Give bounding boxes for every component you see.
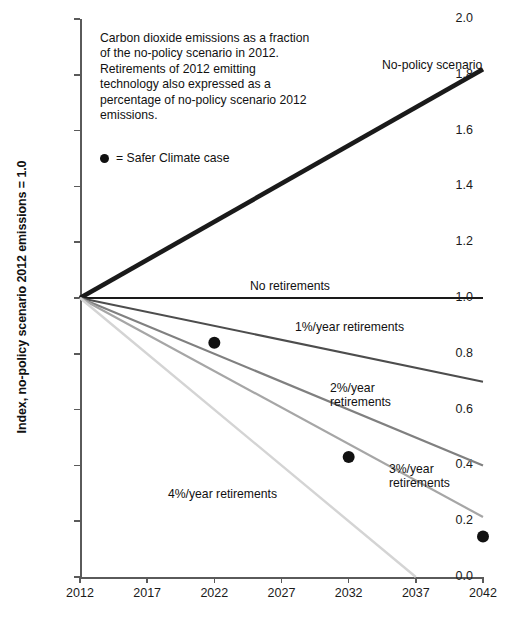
x-tick [79,577,81,583]
x-tick [348,577,350,583]
legend-label: = Safer Climate case [116,151,229,165]
series-label-2pct-line1: 2%/year [330,381,391,395]
series-label-3pct-line2: retirements [389,476,450,490]
series-label-4pct: 4%/year retirements [168,487,277,501]
x-tick-label: 2022 [184,586,244,600]
emissions-line-chart: Index, no-policy scenario 2012 emissions… [0,0,517,619]
legend-marker-icon [100,154,109,163]
x-tick [415,577,417,583]
x-tick [146,577,148,583]
x-tick-label: 2037 [386,586,446,600]
x-tick-label: 2017 [117,586,177,600]
series-label-2pct-line2: retirements [330,395,391,409]
series-label-3pct: 3%/year retirements [389,462,450,490]
x-tick [214,577,216,583]
annotation-text: Carbon dioxide emissions as a fraction o… [100,31,315,123]
series-label-no-policy: No-policy scenario [382,58,482,72]
x-tick-label: 2042 [453,586,513,600]
x-tick-label: 2032 [319,586,379,600]
scatter-point [477,531,489,543]
scatter-point [208,337,220,349]
scatter-point [343,451,355,463]
series-label-1pct: 1%/year retirements [295,320,404,334]
y-axis-title: Index, no-policy scenario 2012 emissions… [15,87,29,507]
x-tick-label: 2012 [50,586,110,600]
series-label-no-retirements: No retirements [250,279,330,293]
x-tick [482,577,484,583]
x-tick-label: 2027 [252,586,312,600]
series-label-3pct-line1: 3%/year [389,462,450,476]
series-label-2pct: 2%/year retirements [330,381,391,409]
legend: = Safer Climate case [100,151,229,165]
x-tick [281,577,283,583]
